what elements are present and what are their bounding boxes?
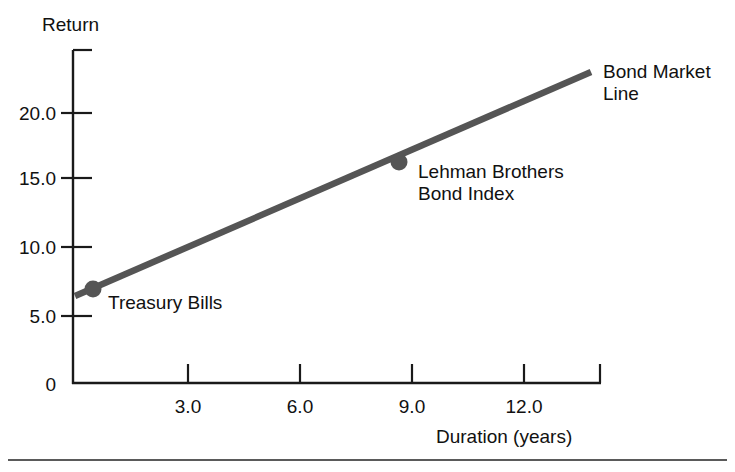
annotation-lehman-line-1: Lehman Brothers xyxy=(418,161,564,183)
y-tick-label-5: 5.0 xyxy=(8,306,56,328)
y-tick-label-0: 0 xyxy=(8,374,56,396)
y-axis-title: Return xyxy=(42,14,99,36)
x-axis-title: Duration (years) xyxy=(436,426,572,448)
x-tick-label-6: 6.0 xyxy=(276,396,324,418)
annotation-treasury-bills: Treasury Bills xyxy=(108,292,222,314)
bottom-divider-rule xyxy=(8,459,727,461)
y-tick-label-20: 20.0 xyxy=(8,103,56,125)
data-point-lehman-brothers-bond-index xyxy=(391,154,408,171)
y-tick-label-10: 10.0 xyxy=(8,237,56,259)
x-tick-label-9: 9.0 xyxy=(388,396,436,418)
annotation-lehman-line-2: Bond Index xyxy=(418,183,514,205)
x-tick-label-12: 12.0 xyxy=(496,396,552,418)
data-point-treasury-bills xyxy=(85,281,102,298)
x-tick-label-3: 3.0 xyxy=(164,396,212,418)
annotation-bond-market-line-1: Bond Market xyxy=(603,61,711,83)
bond-market-line-figure: Return 20.0 15.0 10.0 5.0 0 3.0 6.0 9.0 … xyxy=(0,0,735,472)
y-tick-label-15: 15.0 xyxy=(8,168,56,190)
annotation-bond-market-line-2: Line xyxy=(603,83,639,105)
